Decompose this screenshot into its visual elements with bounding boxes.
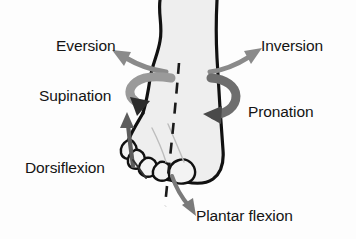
inversion-arrowhead xyxy=(244,48,262,64)
foot-movements-figure: Eversion Inversion Supination Pronation … xyxy=(0,0,356,239)
label-pronation: Pronation xyxy=(248,104,313,120)
dorsiflexion-arrowhead xyxy=(120,112,134,128)
label-supination: Supination xyxy=(39,88,111,104)
label-plantar-flexion: Plantar flexion xyxy=(196,208,293,224)
label-inversion: Inversion xyxy=(261,38,323,54)
label-dorsiflexion: Dorsiflexion xyxy=(25,160,105,176)
label-eversion: Eversion xyxy=(56,38,116,54)
